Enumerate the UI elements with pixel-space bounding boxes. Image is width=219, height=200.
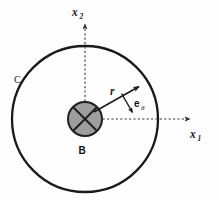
radius-label: r (110, 85, 115, 97)
e-theta-label-base: e (134, 98, 140, 109)
body-label: B (79, 145, 86, 156)
radius-vector-arrow (94, 87, 139, 113)
figure-canvas: x 2 x 1 r e θ B C (0, 0, 219, 200)
x1-axis-label-subscript: 1 (198, 134, 202, 143)
e-theta-vector-arrow (122, 94, 133, 113)
e-theta-label-subscript: θ (141, 104, 145, 112)
x2-axis-label: x 2 (71, 6, 84, 21)
body-region (68, 102, 102, 136)
e-theta-label: e θ (134, 98, 145, 112)
x1-axis-label-base: x (189, 128, 196, 140)
x2-axis-label-subscript: 2 (79, 12, 84, 21)
x1-axis-label: x 1 (189, 128, 201, 143)
polar-coordinate-diagram: x 2 x 1 r e θ B C (0, 0, 219, 200)
x2-axis-label-base: x (71, 6, 78, 18)
boundary-curve-label: C (14, 74, 21, 85)
